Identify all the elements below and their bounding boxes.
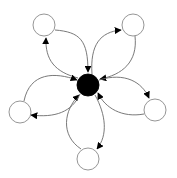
node-right	[144, 99, 166, 121]
node-hub	[77, 74, 99, 96]
nodes-group	[9, 14, 166, 170]
edge-hub-to-bottom	[95, 95, 104, 149]
edge-left-to-hub	[24, 75, 77, 101]
edge-hub-to-right	[99, 77, 149, 98]
edge-right-to-hub	[98, 93, 144, 115]
node-top-left	[33, 14, 55, 36]
node-bottom	[77, 148, 99, 170]
edge-hub-to-top-right	[92, 30, 121, 74]
node-top-right	[122, 14, 144, 36]
edge-top-left-to-hub	[55, 30, 88, 72]
edge-bottom-to-hub	[66, 95, 81, 149]
edge-top-right-to-hub	[100, 36, 135, 79]
hub-spoke-diagram	[0, 0, 177, 178]
edge-hub-to-top-left	[46, 38, 78, 78]
edge-hub-to-left	[31, 94, 80, 116]
node-left	[9, 101, 31, 123]
